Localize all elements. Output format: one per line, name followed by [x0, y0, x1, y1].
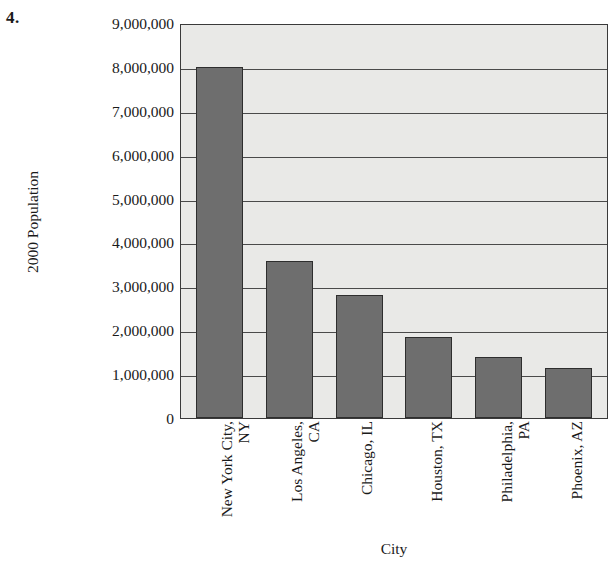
y-axis-tick-label: 9,000,000 [112, 16, 174, 32]
x-axis-category-label: Phoenix, AZ [546, 421, 593, 529]
y-axis-tick-label: 6,000,000 [112, 148, 174, 164]
x-axis-category-label-line: Los Angeles, [289, 421, 306, 502]
clipped-caption-fragment [150, 0, 570, 3]
figure-item-number: 4. [6, 8, 20, 28]
x-axis-category-label-line: Houston, TX [429, 421, 446, 502]
x-axis-category-label-text: Philadelphia,PA [499, 421, 532, 502]
x-axis-category-label: New York City,NY [196, 421, 243, 529]
x-axis-category-label-text: Los Angeles,CA [289, 421, 322, 502]
x-axis-category-label-line: Chicago, IL [359, 421, 376, 495]
x-axis-category-label-line: Philadelphia, [499, 421, 516, 502]
y-axis-tick-label: 2,000,000 [112, 323, 174, 339]
x-axis-category-label: Houston, TX [406, 421, 453, 529]
bar [475, 357, 522, 418]
x-axis-category-label: Chicago, IL [336, 421, 383, 529]
x-axis-category-label-line: CA [306, 421, 323, 443]
y-axis-title-label: 2000 Population [24, 170, 42, 272]
bar [545, 368, 592, 418]
y-axis-tick-label: 8,000,000 [112, 60, 174, 76]
bars-group [181, 25, 607, 418]
x-axis-category-label-line: Phoenix, AZ [569, 421, 586, 499]
x-axis-category-label-text: Chicago, IL [359, 421, 376, 495]
y-axis-title: 2000 Population [22, 24, 44, 419]
y-axis-tick-labels: 9,000,0008,000,0007,000,0006,000,0005,00… [60, 24, 174, 419]
x-axis-category-label-line: NY [236, 421, 253, 443]
y-axis-tick-label: 7,000,000 [112, 104, 174, 120]
x-axis-category-label-text: Houston, TX [429, 421, 446, 502]
y-axis-tick-label: 0 [166, 411, 174, 427]
bar [196, 67, 243, 418]
y-axis-tick-label: 5,000,000 [112, 192, 174, 208]
y-axis-tick-label: 1,000,000 [112, 367, 174, 383]
x-axis-category-label: Los Angeles,CA [266, 421, 313, 529]
x-axis-category-label-line: PA [516, 421, 533, 439]
x-axis-category-label-line: New York City, [219, 421, 236, 517]
y-axis-tick-label: 3,000,000 [112, 280, 174, 296]
x-axis-category-label: Philadelphia,PA [476, 421, 523, 529]
y-axis-tick-label: 4,000,000 [112, 236, 174, 252]
chart-plot-area [180, 24, 608, 419]
bar [405, 337, 452, 418]
x-axis-title: City [180, 540, 608, 558]
x-axis-category-label-text: Phoenix, AZ [569, 421, 586, 499]
x-axis-category-label-text: New York City,NY [219, 421, 252, 517]
bar [266, 261, 313, 418]
x-axis-category-labels: New York City,NYLos Angeles,CAChicago, I… [180, 421, 608, 529]
bar [336, 295, 383, 418]
